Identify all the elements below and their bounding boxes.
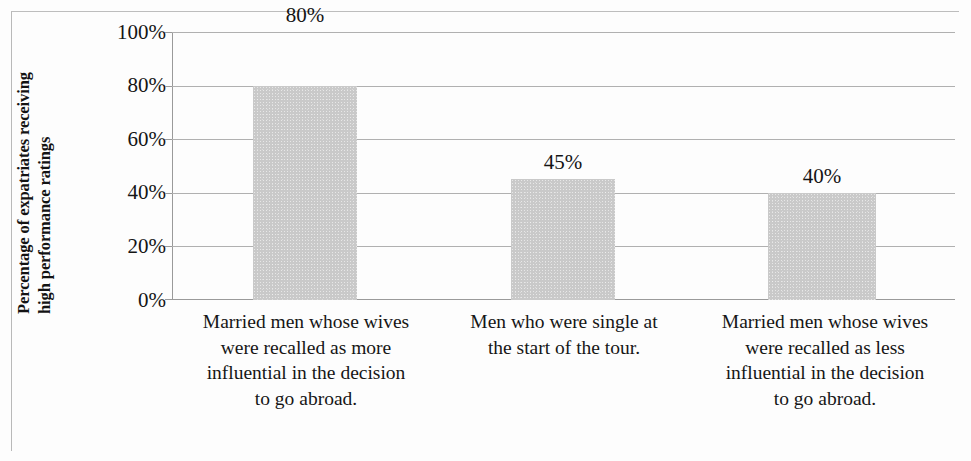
y-axis-title-line-1: Percentage of expatriates receiving <box>14 72 34 314</box>
bar-category-3[interactable] <box>768 193 876 300</box>
y-tickmark-20 <box>165 246 172 247</box>
y-tick-label-60: 60% <box>94 129 166 150</box>
y-tick-label-40: 40% <box>94 182 166 203</box>
x-category-label-3-line-4: to go abroad. <box>694 386 956 412</box>
y-tick-label-0: 0% <box>94 290 166 311</box>
x-category-label-1-line-4: to go abroad. <box>178 386 434 412</box>
y-axis-title-line-2: high performance ratings <box>35 137 55 314</box>
bar-value-label-3: 40% <box>768 166 876 187</box>
y-tickmark-40 <box>165 193 172 194</box>
x-category-label-1-line-2: were recalled as more <box>178 335 434 361</box>
y-axis-tick-labels: 100% 80% 60% 40% 20% 0% <box>90 0 166 461</box>
y-axis-title: Percentage of expatriates receiving high… <box>0 0 78 320</box>
x-category-label-3-line-2: were recalled as less <box>694 335 956 361</box>
x-category-label-3-line-3: influential in the decision <box>694 360 956 386</box>
y-tick-label-100: 100% <box>94 22 166 43</box>
y-tickmark-0 <box>165 299 172 300</box>
x-category-label-3: Married men whose wives were recalled as… <box>694 309 956 411</box>
x-category-label-1: Married men whose wives were recalled as… <box>178 309 434 411</box>
y-tickmark-100 <box>165 32 172 33</box>
bar-value-label-1: 80% <box>253 5 357 26</box>
gridline-100 <box>172 32 955 33</box>
x-category-label-1-line-1: Married men whose wives <box>178 309 434 335</box>
bar-chart: Percentage of expatriates receiving high… <box>0 0 971 461</box>
y-tickmark-80 <box>165 86 172 87</box>
bar-category-2[interactable] <box>511 179 615 300</box>
x-category-label-3-line-1: Married men whose wives <box>694 309 956 335</box>
y-tick-label-80: 80% <box>94 75 166 96</box>
bar-value-label-2: 45% <box>511 152 615 173</box>
x-category-label-2-line-1: Men who were single at <box>436 309 692 335</box>
x-category-label-2-line-2: the start of the tour. <box>436 335 692 361</box>
x-axis-category-labels: Married men whose wives were recalled as… <box>172 309 962 429</box>
y-tickmark-60 <box>165 139 172 140</box>
x-category-label-2: Men who were single at the start of the … <box>436 309 692 360</box>
x-category-label-1-line-3: influential in the decision <box>178 360 434 386</box>
y-axis-line <box>172 32 173 300</box>
plot-area: 80% 45% 40% <box>172 32 955 300</box>
bar-category-1[interactable] <box>253 86 357 300</box>
y-tick-label-20: 20% <box>94 236 166 257</box>
